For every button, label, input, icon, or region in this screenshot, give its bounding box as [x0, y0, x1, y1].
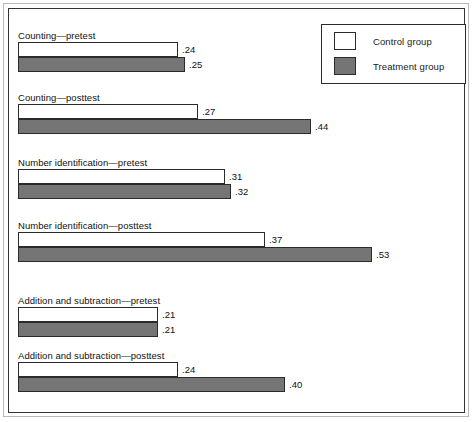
- bar-row: .24: [18, 362, 164, 377]
- bar-treatment[interactable]: [18, 184, 231, 199]
- bar-value-label: .24: [182, 362, 195, 377]
- bar-row: .21: [18, 322, 160, 337]
- bar-group-bars: .27.44: [18, 104, 100, 134]
- bar-treatment[interactable]: [18, 322, 158, 337]
- bar-group-label: Number identification—pretest: [18, 156, 147, 169]
- bar-row: .24: [18, 42, 95, 57]
- bar-control[interactable]: [18, 362, 178, 377]
- bar-row: .37: [18, 232, 152, 247]
- bar-value-label: .24: [182, 42, 195, 57]
- plot-area: Control group Treatment group Counting—p…: [9, 9, 464, 412]
- bar-group: Counting—pretest.24.25: [18, 29, 95, 72]
- bar-control[interactable]: [18, 42, 178, 57]
- chart-legend: Control group Treatment group: [321, 24, 466, 84]
- bar-value-label: .37: [269, 232, 282, 247]
- bar-group-bars: .24.40: [18, 362, 164, 392]
- legend-swatch-treatment: [334, 57, 356, 75]
- bar-group: Number identification—pretest.31.32: [18, 156, 147, 199]
- legend-label-treatment: Treatment group: [373, 61, 444, 72]
- bar-treatment[interactable]: [18, 57, 185, 72]
- bar-treatment[interactable]: [18, 119, 311, 134]
- figure-bar-chart: Control group Treatment group Counting—p…: [0, 0, 473, 422]
- bar-group-bars: .24.25: [18, 42, 95, 72]
- bar-row: .44: [18, 119, 100, 134]
- bar-value-label: .44: [315, 119, 328, 134]
- bar-value-label: .21: [162, 307, 175, 322]
- legend-label-control: Control group: [373, 36, 432, 47]
- bar-row: .40: [18, 377, 164, 392]
- bar-control[interactable]: [18, 104, 198, 119]
- bar-row: .31: [18, 169, 147, 184]
- bar-group-label: Addition and subtraction—pretest: [18, 294, 160, 307]
- bar-value-label: .27: [202, 104, 215, 119]
- bar-group: Addition and subtraction—pretest.21.21: [18, 294, 160, 337]
- bar-group-label: Counting—pretest: [18, 29, 95, 42]
- bar-group-bars: .31.32: [18, 169, 147, 199]
- legend-entry-treatment: Treatment group: [334, 57, 444, 75]
- legend-swatch-control: [334, 32, 356, 50]
- bar-group-label: Counting—posttest: [18, 91, 100, 104]
- bar-row: .21: [18, 307, 160, 322]
- bar-value-label: .32: [235, 184, 248, 199]
- bar-group: Counting—posttest.27.44: [18, 91, 100, 134]
- bar-row: .32: [18, 184, 147, 199]
- bar-group: Number identification—posttest.37.53: [18, 219, 152, 262]
- bar-group-bars: .21.21: [18, 307, 160, 337]
- bar-value-label: .21: [162, 322, 175, 337]
- bar-treatment[interactable]: [18, 247, 372, 262]
- bar-control[interactable]: [18, 232, 265, 247]
- bar-group-label: Addition and subtraction—posttest: [18, 349, 164, 362]
- bar-control[interactable]: [18, 307, 158, 322]
- bar-group-label: Number identification—posttest: [18, 219, 152, 232]
- bar-row: .25: [18, 57, 95, 72]
- bar-control[interactable]: [18, 169, 225, 184]
- bar-group: Addition and subtraction—posttest.24.40: [18, 349, 164, 392]
- bar-group-bars: .37.53: [18, 232, 152, 262]
- bar-row: .27: [18, 104, 100, 119]
- bar-value-label: .53: [376, 247, 389, 262]
- bar-value-label: .40: [289, 377, 302, 392]
- bar-row: .53: [18, 247, 152, 262]
- bar-value-label: .31: [229, 169, 242, 184]
- bar-treatment[interactable]: [18, 377, 285, 392]
- bar-value-label: .25: [189, 57, 202, 72]
- legend-entry-control: Control group: [334, 32, 432, 50]
